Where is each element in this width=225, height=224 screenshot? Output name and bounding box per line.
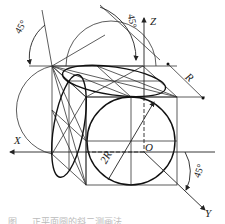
origin-label: O xyxy=(145,142,153,153)
figure-caption: 图 … 正平面圆的斜二测画法 xyxy=(8,215,122,224)
angle-label-top-right: 45° xyxy=(126,13,138,29)
oblique-cube-diagram xyxy=(0,0,225,224)
x-axis-label: X xyxy=(14,135,21,146)
y-axis xyxy=(144,152,205,210)
y-axis-label: Y xyxy=(205,208,211,219)
angle-arc-bottom-right xyxy=(185,152,190,190)
angle-arc-top-left xyxy=(29,25,45,64)
z-axis-label: Z xyxy=(150,16,156,27)
